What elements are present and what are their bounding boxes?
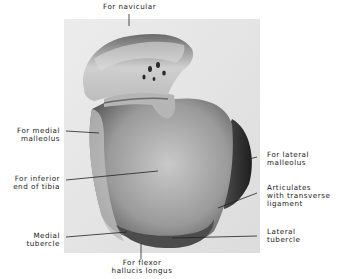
- label-for-inferior-end-of-tibia: For inferior end of tibia: [8, 175, 60, 191]
- label-medial-tubercle: Medial tubercle: [20, 232, 60, 248]
- label-lateral-tubercle: Lateral tubercle: [267, 228, 301, 244]
- label-for-lateral-malleolus: For lateral malleolus: [267, 151, 309, 167]
- label-articulates-transverse-ligament: Articulates with transverse ligament: [267, 184, 330, 209]
- label-for-flexor-hallucis-longus: For flexor hallucis longus: [108, 259, 176, 275]
- label-for-navicular: For navicular: [103, 3, 156, 11]
- label-for-medial-malleolus: For medial malleolus: [12, 127, 60, 143]
